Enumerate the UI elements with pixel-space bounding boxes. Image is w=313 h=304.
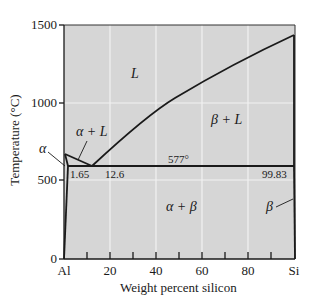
annotation-eutectic-temperature: 577° [168,153,189,165]
y-tick-1000: 1000 [17,96,57,109]
x-tick-20: 20 [95,264,125,277]
annotation-eutectic-composition: 12.6 [105,168,124,180]
solvus-beta [294,166,295,259]
region-alpha-beta: α + β [166,199,197,215]
y-axis-title: Temperature (°C) [7,90,23,190]
x-tick-60: 60 [187,264,217,277]
region-alpha: α [39,141,46,157]
y-tick-1500: 1500 [17,18,57,31]
annotation-alpha-composition: 1.65 [70,168,89,180]
x-tick-40: 40 [141,264,171,277]
region-liquid: L [131,66,139,82]
plot-area [64,25,295,259]
x-tick-si: Si [279,264,309,277]
region-alpha-liquid: α + L [76,124,108,140]
annotation-beta-composition: 99.83 [262,168,287,180]
y-tick-500: 500 [17,173,57,186]
x-tick-80: 80 [233,264,263,277]
x-axis-title: Weight percent silicon [120,280,237,296]
x-tick-al: Al [49,264,79,277]
region-beta-liquid: β + L [211,112,242,128]
region-beta: β [266,199,273,215]
